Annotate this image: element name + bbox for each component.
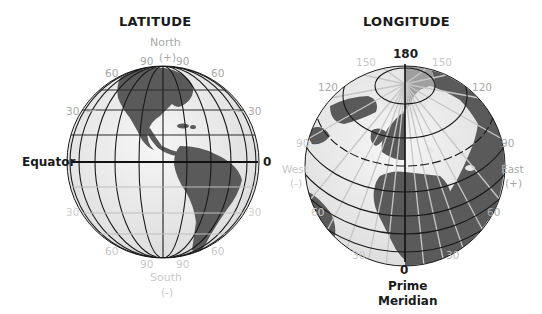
east-sign: (+) bbox=[505, 178, 522, 189]
south-label: South bbox=[150, 272, 182, 283]
south-sign: (-) bbox=[161, 287, 173, 298]
prime-label-line2: Meridian bbox=[378, 295, 437, 307]
lat-tick-bottom-left-90: 90 bbox=[140, 259, 153, 270]
lon-tick-right-60: 60 bbox=[487, 207, 500, 218]
lat-tick-top-right-90: 90 bbox=[176, 56, 189, 67]
west-label: West bbox=[282, 164, 308, 175]
lat-tick-lower-left-30: 30 bbox=[66, 207, 79, 218]
north-sign: (+) bbox=[159, 52, 176, 63]
lon-tick-left-30: 30 bbox=[352, 250, 365, 261]
east-label: East bbox=[501, 164, 524, 175]
lon-tick-left-90: 90 bbox=[296, 138, 309, 149]
lon-top-value-180: 180 bbox=[393, 48, 418, 60]
lon-tick-right-90: 90 bbox=[501, 138, 514, 149]
prime-label-line1: Prime bbox=[388, 280, 427, 292]
lat-tick-lower-right-60: 60 bbox=[211, 246, 224, 257]
west-sign: (-) bbox=[290, 178, 302, 189]
latitude-globe bbox=[60, 66, 266, 258]
lat-tick-upper-right-30: 30 bbox=[248, 106, 261, 117]
lon-tick-left-60: 60 bbox=[311, 207, 324, 218]
lon-tick-right-150: 150 bbox=[432, 57, 452, 68]
lon-tick-right-120: 120 bbox=[472, 82, 492, 93]
lat-tick-bottom-right-90: 90 bbox=[176, 259, 189, 270]
equator-label: Equator bbox=[22, 156, 75, 168]
lat-tick-upper-left-30: 30 bbox=[66, 106, 79, 117]
lon-tick-left-120: 120 bbox=[318, 82, 338, 93]
lat-tick-top-left-90: 90 bbox=[140, 56, 153, 67]
lat-tick-upper-left-60: 60 bbox=[105, 68, 118, 79]
lat-tick-lower-left-60: 60 bbox=[105, 246, 118, 257]
lon-tick-left-150: 150 bbox=[356, 57, 376, 68]
prime-meridian-value: 0 bbox=[400, 264, 408, 276]
equator-value: 0 bbox=[263, 156, 271, 168]
lat-tick-upper-right-60: 60 bbox=[211, 68, 224, 79]
lon-tick-right-30: 30 bbox=[446, 250, 459, 261]
lat-tick-lower-right-30: 30 bbox=[248, 207, 261, 218]
north-label: North bbox=[150, 37, 181, 48]
